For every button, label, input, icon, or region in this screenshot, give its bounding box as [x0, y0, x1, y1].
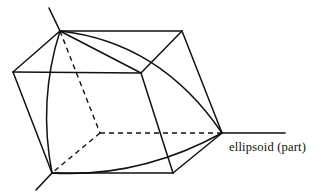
- edge-top-left-back: [13, 31, 60, 72]
- edge-top-right-front: [141, 31, 182, 73]
- axis-tip-lower-left: [36, 173, 52, 190]
- ellipsoid-diagram-canvas: [0, 0, 324, 192]
- ellipsoid-figure: ellipsoid (part): [0, 0, 324, 192]
- edge-front-vertical: [141, 73, 173, 173]
- box-solid-edges: [13, 31, 222, 173]
- coordinate-axes: [36, 8, 285, 190]
- edge-top-right-down: [182, 31, 222, 133]
- box-hidden-edges: [52, 31, 222, 173]
- edge-top-front-up: [60, 31, 141, 73]
- edge-hidden-left-axis: [52, 133, 100, 173]
- ellipsoid-octant-arcs: [47, 31, 222, 174]
- arc-left-meridian: [47, 31, 60, 173]
- edge-hidden-vertical-axis: [60, 31, 100, 133]
- arc-upper-meridian: [60, 31, 222, 133]
- ellipsoid-part-label: ellipsoid (part): [229, 140, 306, 155]
- axis-tip-upper-left: [49, 8, 60, 31]
